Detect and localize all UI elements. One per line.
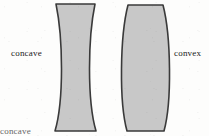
biconcave-lens-shape <box>55 4 96 131</box>
convex-lens-label: convex <box>174 49 201 58</box>
concave-lens-label: concave <box>11 49 42 58</box>
lens-shapes-canvas <box>0 0 209 136</box>
biconvex-lens-shape <box>121 5 169 131</box>
lens-diagram-figure: concave convex concave <box>0 0 209 136</box>
clipped-bottom-caption: concave <box>0 127 31 136</box>
